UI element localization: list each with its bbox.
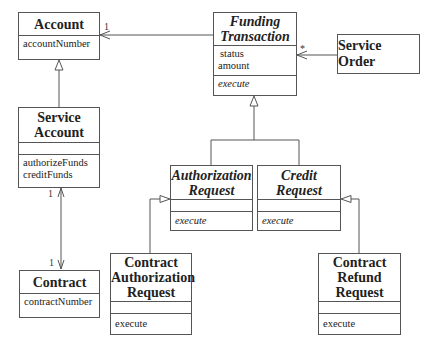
class-name-line: Credit [258,168,340,183]
class-name-line: Request [171,183,252,198]
attributes-section: contractNumber [20,294,99,310]
class-authorization-request[interactable]: Authorization Request execute [170,165,253,231]
operation: execute [115,318,187,330]
hollow-triangle-icon [250,96,258,106]
multiplicity-label: 1 [104,22,109,32]
operations-section: execute [171,212,252,229]
class-name: Credit Request [258,166,340,200]
multiplicity-label: 1 [49,258,54,268]
hollow-triangle-icon [55,60,63,70]
class-name-line: Contract [319,255,400,270]
operations-section: authorizeFunds creditFunds [19,155,99,183]
attributes-section [258,200,340,212]
operations-section: execute [258,212,340,229]
operation: authorizeFunds [23,157,95,169]
generalization-contractauth-auth [150,199,160,253]
attributes-section [111,302,191,314]
class-name-line: Service [19,110,99,125]
class-funding-transaction[interactable]: Funding Transaction status amount execut… [213,12,297,96]
class-name: Authorization Request [171,166,252,200]
class-contract-refund-request[interactable]: Contract Refund Request execute [318,253,401,335]
class-service-order[interactable]: Service Order [337,34,420,74]
class-name-line: Account [19,125,99,140]
attribute: accountNumber [23,38,95,50]
class-name-line: Contract [20,275,99,290]
attributes-section [19,143,99,155]
hollow-triangle-icon [341,196,351,203]
class-name: Contract Refund Request [319,254,400,302]
class-name: Funding Transaction [214,13,296,46]
operations-section: execute [214,76,296,92]
class-contract-authorization-request[interactable]: Contract Authorization Request execute [110,253,192,335]
class-service-account[interactable]: Service Account authorizeFunds creditFun… [18,107,100,188]
operations-section: execute [319,314,400,332]
attributes-section [171,200,252,212]
attributes-section: accountNumber [19,36,99,52]
operation: execute [218,78,292,90]
class-name: Service Account [19,108,99,143]
class-name-line: Refund [319,270,400,285]
class-name-line: Request [258,183,340,198]
class-name-line: Funding [214,14,296,29]
class-name-line: Request [111,285,191,300]
operations-section: execute [111,314,191,332]
operation: execute [323,318,396,330]
hollow-triangle-icon [160,196,170,203]
multiplicity-label: * [300,44,305,54]
class-name: Account [19,13,99,36]
class-name-line: Contract [111,255,191,270]
class-name-line: Account [19,17,99,32]
class-account[interactable]: Account accountNumber [18,12,100,60]
class-name-line: Request [319,285,400,300]
class-name: Service Order [338,38,419,70]
attributes-section: status amount [214,46,296,76]
attribute: contractNumber [24,296,95,308]
class-name-line: Authorization [111,270,191,285]
attribute: status [220,48,292,60]
operation: creditFunds [23,169,95,181]
attribute: amount [218,60,292,72]
class-credit-request[interactable]: Credit Request execute [257,165,341,231]
class-contract[interactable]: Contract contractNumber [19,270,100,318]
generalization-contractrefund-credit [351,199,359,253]
class-name-line: Authorization [171,168,252,183]
class-name: Contract Authorization Request [111,254,191,302]
class-name-line: Transaction [214,29,296,44]
operation: execute [175,215,248,227]
class-name: Contract [20,271,99,294]
operation: execute [262,215,336,227]
multiplicity-label: 1 [48,189,53,199]
attributes-section [319,302,400,314]
